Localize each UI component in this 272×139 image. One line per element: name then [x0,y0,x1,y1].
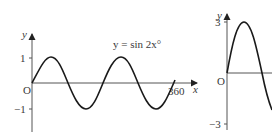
right-tick-label-3: 3 [215,16,221,28]
right-chart: y O 3 −3 [209,9,272,130]
left-tick-label-1: 1 [20,52,26,64]
equation-label: y = sin 2x° [113,38,161,50]
right-origin-label: O [217,75,225,87]
right-tick-label-neg3: −3 [209,118,221,130]
figure: y x O 1 −1 360 y = sin 2x° y O 3 −3 [0,0,272,139]
left-tick-label-neg1: −1 [14,103,26,115]
left-x-label: x [192,83,198,95]
sine-curve-right [227,22,272,110]
left-chart: y x O 1 −1 360 y = sin 2x° [14,28,198,132]
left-y-label: y [21,28,27,40]
left-origin-label: O [23,84,31,96]
